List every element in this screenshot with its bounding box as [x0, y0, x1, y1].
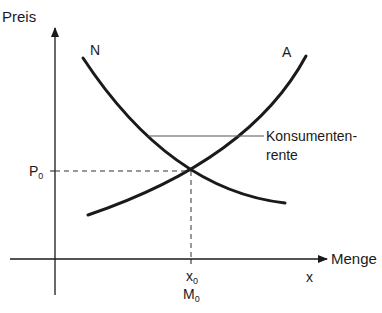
- consumer-surplus-label-line2: rente: [266, 147, 298, 163]
- x-axis-label: Menge: [331, 250, 377, 267]
- demand-curve-label: N: [90, 42, 100, 58]
- equilibrium-price-label: P0: [29, 163, 43, 181]
- equilibrium-quantity-label: x0: [186, 268, 198, 286]
- consumer-surplus-label-line1: Konsumenten-: [266, 128, 357, 144]
- equilibrium-quantity-alt-label: M0: [183, 286, 200, 304]
- supply-curve-label: A: [282, 44, 292, 60]
- x-axis-variable: x: [306, 269, 313, 285]
- y-axis-label: Preis: [2, 8, 36, 25]
- demand-curve: [83, 58, 285, 203]
- supply-demand-diagram: Preis Menge x N A Konsumenten- rente P0 …: [0, 0, 382, 313]
